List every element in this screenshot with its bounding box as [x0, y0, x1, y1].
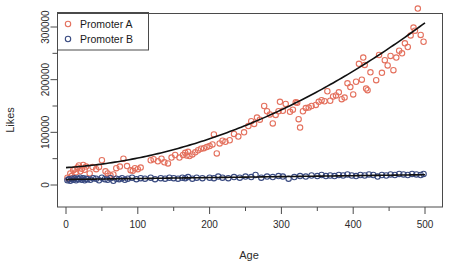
x-tick-label: 0 — [63, 219, 69, 230]
data-point — [373, 77, 378, 82]
legend[interactable]: Promoter APromoter B — [58, 13, 149, 51]
data-point — [99, 158, 104, 163]
data-point — [270, 121, 275, 126]
legend-item-promoter-b[interactable]: Promoter B — [65, 33, 133, 45]
data-point — [405, 44, 410, 49]
data-point — [283, 101, 288, 106]
data-point — [382, 57, 387, 62]
x-tick-label: 400 — [345, 219, 362, 230]
data-point — [402, 41, 407, 46]
data-point — [359, 77, 364, 82]
y-tick-label: 0 — [40, 182, 51, 188]
data-point — [325, 89, 330, 94]
data-point — [348, 84, 353, 89]
y-axis: 0100000200000300000 — [40, 10, 58, 188]
legend-label: Promoter B — [80, 33, 133, 45]
data-point — [363, 86, 368, 91]
data-point — [418, 32, 423, 37]
data-point — [241, 130, 246, 135]
data-point — [385, 63, 390, 68]
data-point — [353, 79, 358, 84]
data-point — [162, 160, 167, 165]
trendline-layer — [66, 23, 425, 180]
trendline-promoter-a — [66, 23, 425, 168]
y-tick-label: 100000 — [40, 115, 51, 149]
y-tick-label: 300000 — [40, 10, 51, 44]
data-point — [394, 55, 399, 60]
data-point — [379, 70, 384, 75]
x-axis: 0100200300400500 — [63, 207, 434, 230]
y-tick-label: 200000 — [40, 63, 51, 97]
data-point — [261, 103, 266, 108]
data-point — [388, 53, 393, 58]
x-tick-label: 300 — [273, 219, 290, 230]
data-point — [368, 70, 373, 75]
data-point — [296, 116, 301, 121]
scatter-plot: 0100000200000300000 0100200300400500 Lik… — [0, 0, 455, 268]
x-axis-title: Age — [239, 249, 259, 261]
data-point — [165, 161, 170, 166]
legend-marker-icon — [65, 21, 70, 26]
x-tick-label: 100 — [129, 219, 146, 230]
legend-label: Promoter A — [80, 18, 133, 30]
chart-canvas: 0100000200000300000 0100200300400500 Lik… — [0, 0, 455, 268]
x-tick-label: 500 — [417, 219, 434, 230]
data-point — [277, 99, 282, 104]
data-point — [361, 55, 366, 60]
data-point — [351, 92, 356, 97]
data-point — [365, 88, 370, 93]
x-tick-label: 200 — [201, 219, 218, 230]
data-point — [391, 67, 396, 72]
legend-item-promoter-a[interactable]: Promoter A — [65, 18, 132, 30]
data-point — [345, 81, 350, 86]
y-axis-title: Likes — [4, 107, 16, 133]
data-point — [214, 151, 219, 156]
data-point — [415, 6, 420, 11]
legend-marker-icon — [65, 36, 70, 41]
data-point — [236, 134, 241, 139]
data-point — [87, 171, 92, 176]
data-point — [421, 39, 426, 44]
data-point — [297, 125, 302, 130]
